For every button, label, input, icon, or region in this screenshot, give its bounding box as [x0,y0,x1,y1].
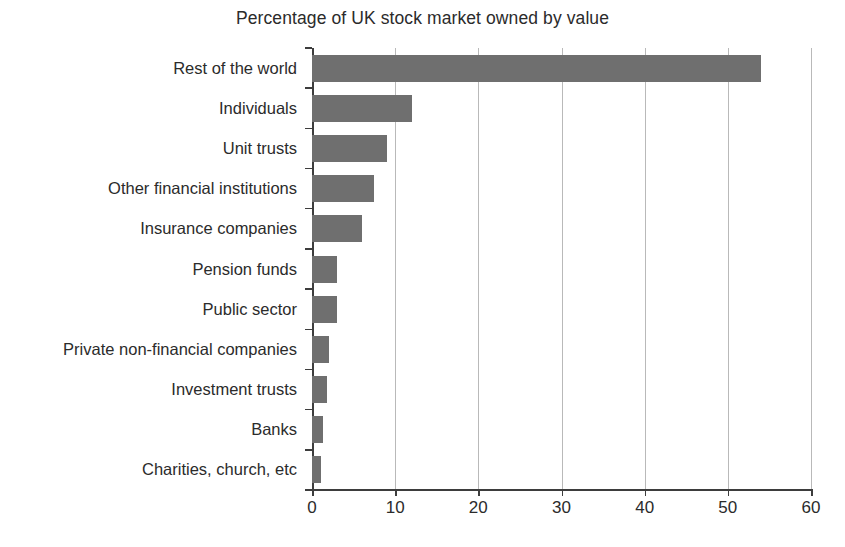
category-label: Public sector [203,296,297,323]
x-tick-label-60: 60 [802,498,821,518]
category-label: Rest of the world [173,55,297,82]
category-tick [305,489,312,491]
x-tick-40 [645,489,647,496]
category-axis-labels: Rest of the worldIndividualsUnit trustsO… [0,48,305,490]
bar [312,296,337,323]
category-tick [305,87,312,89]
gridline-40 [645,48,646,490]
category-tick [305,47,312,49]
category-label: Investment trusts [171,376,297,403]
x-tick-label-30: 30 [552,498,571,518]
category-label: Pension funds [192,256,297,283]
bar [312,135,387,162]
bar [312,456,321,483]
category-tick [305,168,312,170]
category-tick [305,329,312,331]
plot-area [312,48,811,490]
category-tick [305,409,312,411]
category-tick [305,248,312,250]
category-label: Banks [251,416,297,443]
category-label: Insurance companies [140,215,297,242]
category-tick [305,128,312,130]
category-label: Unit trusts [223,135,297,162]
bar [312,215,362,242]
category-tick [305,369,312,371]
bar-chart-figure: Percentage of UK stock market owned by v… [0,0,845,547]
category-tick [305,288,312,290]
x-tick-label-50: 50 [718,498,737,518]
category-label: Charities, church, etc [142,456,297,483]
x-tick-60 [811,489,813,496]
x-axis-tick-labels: 0102030405060 [0,498,845,528]
x-tick-label-20: 20 [469,498,488,518]
x-tick-label-10: 10 [386,498,405,518]
x-tick-10 [395,489,397,496]
bar [312,416,323,443]
bar [312,95,412,122]
gridline-20 [478,48,479,490]
chart-title: Percentage of UK stock market owned by v… [0,8,845,29]
x-tick-50 [728,489,730,496]
x-tick-label-40: 40 [635,498,654,518]
category-label: Individuals [219,95,297,122]
category-label: Other financial institutions [108,175,297,202]
gridline-30 [562,48,563,490]
category-label: Private non-financial companies [63,336,297,363]
x-tick-20 [478,489,480,496]
x-tick-30 [562,489,564,496]
category-tick [305,208,312,210]
category-tick [305,449,312,451]
bar [312,376,327,403]
x-tick-0 [312,489,314,496]
gridline-60 [811,48,812,490]
bar [312,336,329,363]
bar [312,175,374,202]
x-tick-label-0: 0 [307,498,316,518]
gridline-50 [728,48,729,490]
bar [312,256,337,283]
bar [312,55,761,82]
